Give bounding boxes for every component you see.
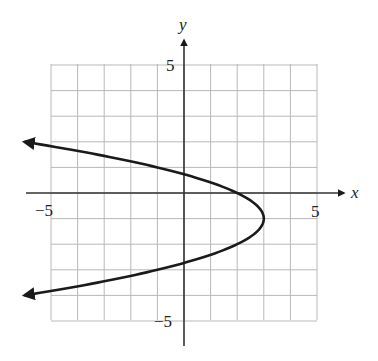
y-axis-label: y	[177, 15, 187, 34]
y-tick-min-label: −5	[154, 312, 172, 331]
y-tick-max-label: 5	[166, 56, 175, 75]
graph-figure: x y −5 5 5 −5	[0, 0, 378, 361]
x-tick-min-label: −5	[35, 201, 53, 220]
axes	[26, 40, 344, 346]
x-tick-max-label: 5	[311, 202, 320, 221]
coordinate-plane: x y −5 5 5 −5	[0, 0, 378, 361]
x-axis-label: x	[350, 183, 359, 202]
